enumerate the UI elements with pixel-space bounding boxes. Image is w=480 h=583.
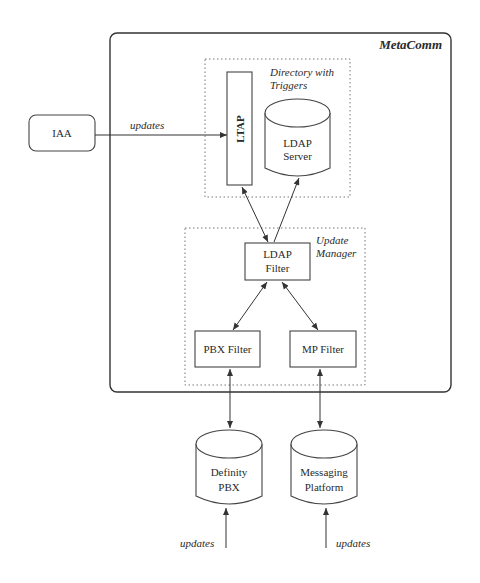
edge-updates-definity: updates <box>180 508 226 549</box>
ldap-server-label-line2: Server <box>283 150 312 162</box>
mp-filter-node: MP Filter <box>290 331 356 367</box>
directory-group-label-line1: Directory with <box>269 66 335 78</box>
iaa-node: IAA <box>29 115 95 151</box>
mp-filter-label: MP Filter <box>302 343 344 355</box>
update-manager-label-line1: Update <box>316 234 349 246</box>
update-manager-label-line2: Manager <box>315 247 357 259</box>
edge-ldapserver-ldapfilter <box>274 178 299 242</box>
edge-iaa-ltap: updates <box>95 119 227 135</box>
metacomm-architecture-diagram: MetaComm Directory with Triggers Update … <box>0 0 480 583</box>
ldap-server-node: LDAP Server <box>265 99 330 176</box>
iaa-label: IAA <box>52 127 72 139</box>
mp-updates-label: updates <box>336 537 370 549</box>
messaging-label-line1: Messaging <box>300 466 348 478</box>
pbx-updates-label: updates <box>180 537 214 549</box>
ltap-node: LTAP <box>227 72 252 185</box>
directory-group-label-line2: Triggers <box>270 79 307 91</box>
iaa-updates-label: updates <box>130 119 164 131</box>
ltap-label: LTAP <box>234 115 246 143</box>
ldap-filter-node: LDAP Filter <box>245 243 310 280</box>
messaging-platform-node: Messaging Platform <box>291 430 357 504</box>
metacomm-label: MetaComm <box>378 37 442 52</box>
ldap-filter-label-line2: Filter <box>266 262 290 274</box>
edge-ltap-ldapfilter <box>242 187 268 242</box>
pbx-filter-label: PBX Filter <box>204 343 252 355</box>
messaging-label-line2: Platform <box>305 481 344 493</box>
edge-updates-messaging: updates <box>326 508 370 549</box>
definity-pbx-node: Definity PBX <box>196 430 262 504</box>
ldap-filter-label-line1: LDAP <box>263 248 292 260</box>
ldap-server-label-line1: LDAP <box>283 137 312 149</box>
edge-ldapfilter-mpfilter <box>282 282 318 330</box>
definity-label-line1: Definity <box>211 466 248 478</box>
pbx-filter-node: PBX Filter <box>195 331 260 367</box>
edge-ldapfilter-pbxfilter <box>233 282 267 330</box>
definity-label-line2: PBX <box>218 481 239 493</box>
